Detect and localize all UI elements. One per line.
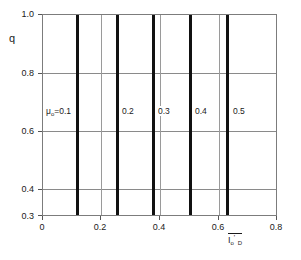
gridline-vertical-0.6 [219,15,220,215]
mu-value: =0.1 [54,106,71,116]
curve-mu-0.4 [189,15,192,215]
curve-label-mu-0.5: 0.5 [232,106,246,116]
gridline-vertical-0.2 [101,15,102,215]
x-tick-label-0: 0 [22,223,62,232]
x-tick-mark-0 [42,216,43,220]
y-axis-title: q [9,32,15,44]
x-tick-label-0.8: 0.8 [256,223,296,232]
curve-label-mu-0.1: μo=0.1 [45,106,72,117]
y-tick-label-0.4: 0.4 [0,185,34,194]
x-tick-mark-0.6 [218,216,219,220]
curve-mu-0.1 [76,15,79,215]
curve-mu-0.5 [226,15,229,215]
y-tick-label-0.3: 0.3 [0,212,34,221]
x-tick-label-0.2: 0.2 [80,223,120,232]
curve-label-mu-0.2: 0.2 [121,106,135,116]
mu-subscript: o [51,111,54,117]
x-axis-title-prime: ' [234,234,235,241]
x-axis-title-overbar: Io' D [228,233,242,245]
plot-area: μo=0.1 0.2 0.3 0.4 0.5 [42,14,277,216]
curve-mu-0.2 [116,15,119,215]
curve-label-mu-0.4: 0.4 [194,106,208,116]
y-tick-label-0.6: 0.6 [0,127,34,136]
x-tick-mark-0.8 [276,216,277,220]
x-tick-mark-0.2 [100,216,101,220]
x-axis-title: Io' D [228,233,242,245]
curve-mu-0.3 [152,15,155,215]
y-tick-label-1.0: 1.0 [0,10,34,19]
y-tick-label-0.8: 0.8 [0,69,34,78]
x-tick-mark-0.4 [159,216,160,220]
curve-label-mu-0.3: 0.3 [157,106,171,116]
x-tick-label-0.6: 0.6 [198,223,238,232]
x-axis-title-denominator: D [238,240,242,246]
chart-figure: q 1.0 0.8 0.6 0.4 0.3 μo=0.1 0.2 0.3 0.4… [0,0,301,260]
x-tick-label-0.4: 0.4 [139,223,179,232]
